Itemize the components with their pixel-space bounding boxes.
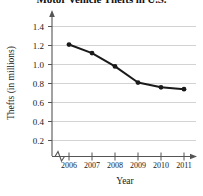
- data-series-thefts: [67, 42, 187, 91]
- gridlines: [52, 27, 196, 141]
- x-axis: [52, 152, 197, 162]
- data-point: [113, 64, 118, 69]
- data-point: [67, 42, 72, 47]
- y-axis: [48, 10, 55, 156]
- data-point: [159, 85, 164, 90]
- data-point: [182, 87, 187, 92]
- chart-plot-area: [0, 0, 203, 196]
- data-point: [136, 80, 141, 85]
- chart-container: Motor Vehicle Thefts in U.S. Thefts (in …: [0, 0, 203, 196]
- data-point: [90, 51, 95, 56]
